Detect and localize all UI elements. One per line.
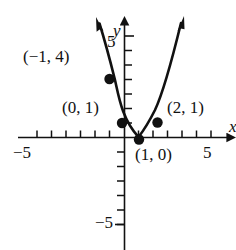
x-axis-label: x [229,118,236,135]
graph-figure: y x 5 −5 −5 5 (−1, 4) (0, 1) (1, 0) (2, … [0,0,236,250]
x-tick-label-neg5: −5 [13,144,31,161]
data-point-2-1 [152,117,162,127]
parabola-right-arrowhead [178,16,185,31]
parabola-left-arrowhead [96,17,104,32]
data-point-1-0 [134,134,144,144]
point-label-2-1: (2, 1) [167,99,204,116]
data-point-neg1-4 [104,74,114,84]
y-tick-label-5: 5 [107,33,116,50]
x-axis [18,131,228,138]
y-tick-label-neg5: −5 [95,214,113,231]
data-point-0-1 [117,118,127,128]
x-tick-label-5: 5 [203,144,212,161]
point-label-1-0: (1, 0) [135,146,172,163]
point-label-0-1: (0, 1) [62,99,99,116]
point-label-neg1-4: (−1, 4) [23,48,69,65]
